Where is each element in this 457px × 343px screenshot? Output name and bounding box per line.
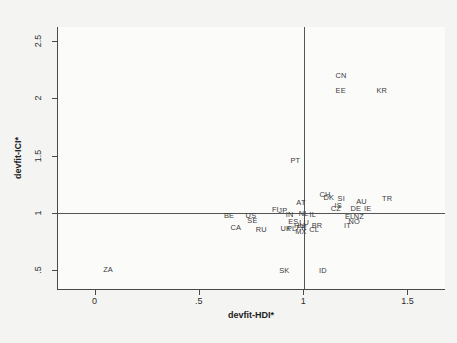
y-tick-label: 1 <box>33 211 43 216</box>
data-point-label: CN <box>336 70 347 79</box>
data-point-label: CL <box>309 224 319 233</box>
x-tick <box>95 290 96 295</box>
y-tick-label: 2 <box>33 96 43 101</box>
y-axis-title: devfit-ICI* <box>13 137 23 179</box>
data-point-label: BE <box>224 210 234 219</box>
y-tick <box>52 213 57 214</box>
y-tick-label: .5 <box>33 267 43 275</box>
scatter-plot-figure: CNEEKRPTATCHDKSIAUTRISCZDEIEFIJPINNLILBE… <box>0 0 457 343</box>
data-point-label: AT <box>296 197 305 206</box>
x-axis-title: devfit-HDI* <box>228 310 274 320</box>
data-point-label: MX <box>295 227 307 236</box>
data-point-label: EE <box>336 85 346 94</box>
data-point-label: SK <box>279 265 289 274</box>
x-tick <box>407 290 408 295</box>
data-point-label: RU <box>256 225 267 234</box>
plot-area: CNEEKRPTATCHDKSIAUTRISCZDEIEFIJPINNLILBE… <box>57 27 445 290</box>
reference-line-x-1 <box>304 27 305 289</box>
data-point-label: IT <box>344 221 351 230</box>
y-tick <box>52 270 57 271</box>
data-point-label: SE <box>247 216 257 225</box>
data-point-label: PT <box>290 155 300 164</box>
x-tick <box>303 290 304 295</box>
data-point-label: IE <box>364 203 371 212</box>
y-tick <box>52 156 57 157</box>
x-tick <box>199 290 200 295</box>
data-point-label: KR <box>376 85 387 94</box>
data-point-label: DK <box>323 193 334 202</box>
data-point-label: ID <box>319 265 327 274</box>
y-tick <box>52 98 57 99</box>
y-tick <box>52 41 57 42</box>
y-tick-label: 1.5 <box>33 149 43 162</box>
data-point-label: IL <box>310 210 317 219</box>
x-tick-label: 1 <box>301 296 306 306</box>
x-tick-label: .5 <box>195 296 203 306</box>
data-point-label: CZ <box>331 203 341 212</box>
y-tick-label: 2.5 <box>33 35 43 48</box>
x-tick-label: 0 <box>92 296 97 306</box>
data-point-label: ZA <box>103 265 113 274</box>
x-tick-label: 1.5 <box>401 296 414 306</box>
data-point-label: TR <box>382 193 392 202</box>
data-point-label: NL <box>299 209 309 218</box>
data-point-label: CA <box>230 223 241 232</box>
